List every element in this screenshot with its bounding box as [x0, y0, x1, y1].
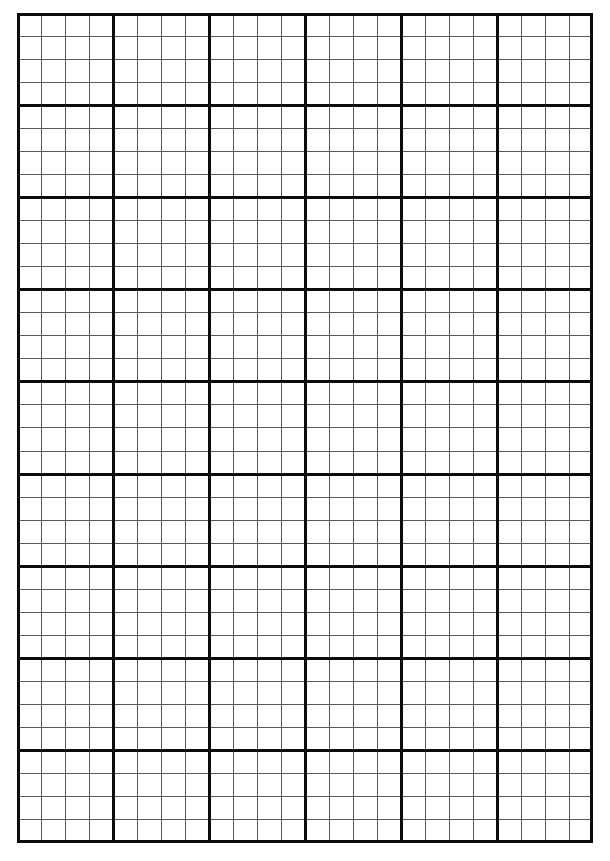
grid-sheet: [17, 13, 593, 843]
page-title: Graph Paper: [0, 21, 1, 22]
graph-paper-page: Graph Paper: [0, 0, 610, 861]
grid-canvas: [17, 13, 593, 843]
